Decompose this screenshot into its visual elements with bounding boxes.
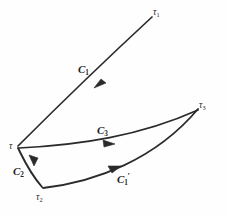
- curve-c2-arrowhead: [29, 155, 38, 166]
- node-label-tau: τ: [9, 142, 12, 152]
- curve-c1-subscript: 1: [85, 69, 89, 77]
- curve-label-c2: C2: [13, 164, 23, 179]
- figure-root: τ τ1 τ2 τ3 C1 C2 C3 C1′: [0, 0, 228, 216]
- curve-c1-path: [18, 17, 152, 146]
- curve-diagram-canvas: [0, 0, 228, 216]
- curve-c3-subscript: 3: [104, 130, 108, 138]
- node-label-tau-2: τ2: [36, 193, 43, 203]
- node-tau2-subscript: 2: [39, 196, 42, 203]
- node-tau1-subscript: 1: [156, 11, 159, 18]
- curve-c1-arrowhead: [94, 79, 106, 88]
- node-tau3-subscript: 3: [202, 104, 205, 111]
- curve-c2-subscript: 2: [20, 171, 24, 179]
- curve-c1p-prime-mark: ′: [127, 171, 129, 181]
- node-tau-symbol: τ: [9, 141, 12, 151]
- node-label-tau-3: τ3: [199, 101, 206, 111]
- curve-c3-arrowhead: [103, 140, 115, 147]
- curve-label-c1-prime: C1′: [117, 172, 130, 187]
- node-label-tau-1: τ1: [153, 8, 160, 18]
- curve-label-c3: C3: [97, 123, 107, 138]
- curve-label-c1: C1: [78, 62, 88, 77]
